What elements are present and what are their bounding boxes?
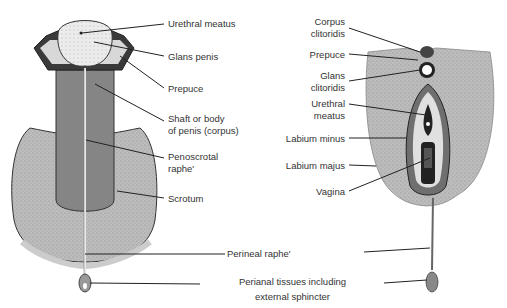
label-prepuce-female: Prepuce xyxy=(310,49,345,61)
label-glans-clitoridis: Glans clitoridis xyxy=(311,70,345,94)
label-perianal-line1: Perianal tissues including xyxy=(205,276,380,288)
label-shaft-line1: Shaft or body xyxy=(168,113,239,125)
label-glans-line2: clitoridis xyxy=(311,82,345,94)
anatomy-illustration xyxy=(0,0,507,308)
label-urethral-line1: Urethral xyxy=(311,98,345,110)
label-shaft-line2: of penis (corpus) xyxy=(168,125,239,137)
label-corpus-line1: Corpus xyxy=(311,16,345,28)
label-penoscrotal-line1: Penoscrotal xyxy=(168,151,218,163)
label-perianal-line2: external sphincter xyxy=(205,291,380,303)
label-labium-majus: Labium majus xyxy=(286,160,345,172)
label-glans-line1: Glans xyxy=(311,70,345,82)
label-corpus-line2: clitoridis xyxy=(311,28,345,40)
female-figure xyxy=(349,28,494,292)
label-labium-minus: Labium minus xyxy=(286,133,345,145)
label-scrotum: Scrotum xyxy=(168,193,203,205)
label-penoscrotal-raphe: Penoscrotal raphe' xyxy=(168,151,218,175)
label-shaft: Shaft or body of penis (corpus) xyxy=(168,113,239,137)
label-penoscrotal-line2: raphe' xyxy=(168,163,218,175)
label-vagina: Vagina xyxy=(316,186,345,198)
label-glans-penis: Glans penis xyxy=(168,51,218,63)
label-corpus-clitoridis: Corpus clitoridis xyxy=(311,16,345,40)
label-urethral-meatus-female: Urethral meatus xyxy=(311,98,345,122)
label-urethral-line2: meatus xyxy=(311,110,345,122)
label-perianal-tissues: Perianal tissues including external sphi… xyxy=(205,276,380,303)
label-perineal-raphe: Perineal raphe' xyxy=(227,248,291,260)
label-prepuce-male: Prepuce xyxy=(168,83,203,95)
label-urethral-meatus-male: Urethral meatus xyxy=(168,18,236,30)
